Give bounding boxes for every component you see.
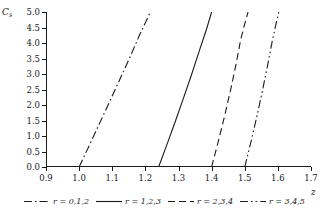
x-tick-mark — [278, 167, 279, 171]
y-axis-title-main: C — [2, 7, 9, 17]
x-tick-mark — [179, 167, 180, 171]
legend-entry[interactable]: r = 0,1,2 — [24, 197, 89, 206]
y-axis-title-subscript: s — [9, 11, 12, 19]
x-tick-label: 1.5 — [238, 174, 252, 183]
x-tick-label: 1.6 — [271, 174, 285, 183]
x-tick-label: 1.4 — [205, 174, 219, 183]
series-line-2 — [212, 12, 248, 167]
legend-line-sample — [96, 197, 122, 206]
y-tick-label: 2.0 — [26, 101, 40, 110]
legend-label: r = 1,2,3 — [125, 197, 161, 206]
legend-label: r = 0,1,2 — [53, 197, 89, 206]
x-tick-mark — [112, 167, 113, 171]
legend-line-sample — [240, 197, 266, 206]
chart-legend: r = 0,1,2r = 1,2,3r = 2,3,4r = 3,4,5 — [0, 197, 329, 206]
series-line-3 — [245, 12, 279, 167]
y-tick-label: 1.0 — [26, 132, 40, 141]
series-line-0 — [79, 12, 150, 167]
x-tick-mark — [311, 167, 312, 171]
x-tick-mark — [145, 167, 146, 171]
plot-area: 0.00.51.01.52.02.53.03.54.04.55.0 0.91.0… — [46, 12, 311, 167]
series-line-1 — [159, 12, 212, 167]
legend-entry[interactable]: r = 2,3,4 — [168, 197, 233, 206]
x-tick-mark — [46, 167, 47, 171]
x-tick-mark — [212, 167, 213, 171]
y-tick-label: 3.0 — [26, 70, 40, 79]
legend-entry[interactable]: r = 1,2,3 — [96, 197, 161, 206]
y-tick-label: 0.0 — [26, 163, 40, 172]
legend-line-sample — [168, 197, 194, 206]
x-tick-label: 0.9 — [39, 174, 53, 183]
y-tick-label: 4.5 — [26, 23, 40, 32]
legend-line-sample — [24, 197, 50, 206]
chart-figure: Cs z 0.00.51.01.52.02.53.03.54.04.55.0 0… — [0, 0, 329, 218]
legend-label: r = 3,4,5 — [269, 197, 305, 206]
x-axis-title: z — [311, 187, 315, 197]
x-tick-label: 1.0 — [72, 174, 86, 183]
y-tick-label: 0.5 — [26, 147, 40, 156]
x-tick-label: 1.2 — [139, 174, 153, 183]
data-curves — [46, 12, 311, 167]
x-tick-label: 1.1 — [105, 174, 119, 183]
y-tick-label: 3.5 — [26, 54, 40, 63]
y-tick-label: 2.5 — [26, 85, 40, 94]
y-tick-label: 1.5 — [26, 116, 40, 125]
x-tick-label: 1.7 — [304, 174, 318, 183]
x-tick-label: 1.3 — [172, 174, 186, 183]
y-axis-title: Cs — [2, 7, 12, 19]
legend-entry[interactable]: r = 3,4,5 — [240, 197, 305, 206]
legend-label: r = 2,3,4 — [197, 197, 233, 206]
y-tick-label: 4.0 — [26, 39, 40, 48]
x-tick-mark — [79, 167, 80, 171]
y-tick-label: 5.0 — [26, 8, 40, 17]
x-tick-mark — [245, 167, 246, 171]
